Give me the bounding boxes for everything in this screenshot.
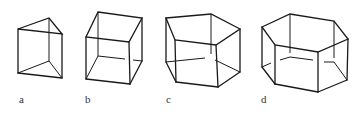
figure-label-c: c	[166, 93, 171, 105]
cube-figure	[86, 12, 142, 84]
figure-label-a: a	[19, 93, 24, 105]
triangular-prism-figure	[18, 18, 62, 78]
prism-diagram	[0, 0, 362, 116]
hexagonal-prism-figure	[262, 14, 348, 92]
figure-label-b: b	[85, 93, 91, 105]
pentagonal-prism-figure	[166, 14, 240, 87]
figure-label-d: d	[261, 93, 267, 105]
